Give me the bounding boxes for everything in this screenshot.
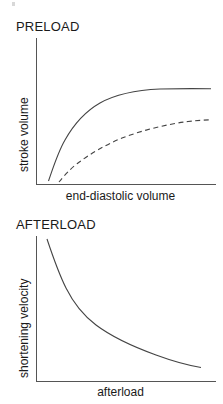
afterload-x-axis-label: afterload — [9, 386, 223, 398]
preload-chart-panel: PRELOAD stroke volume end-diastolic volu… — [0, 0, 223, 206]
preload-depressed-curve — [59, 120, 210, 182]
preload-plot-area — [0, 0, 223, 206]
afterload-velocity-curve — [47, 239, 201, 368]
afterload-y-axis-label: shortening velocity — [18, 279, 30, 378]
afterload-chart-panel: AFTERLOAD shortening velocity — [0, 206, 223, 404]
preload-y-axis-label: stroke volume — [18, 97, 30, 172]
afterload-plot-area — [0, 206, 223, 404]
figure-container: PRELOAD stroke volume end-diastolic volu… — [0, 0, 223, 404]
preload-x-axis-label: end-diastolic volume — [9, 190, 223, 202]
